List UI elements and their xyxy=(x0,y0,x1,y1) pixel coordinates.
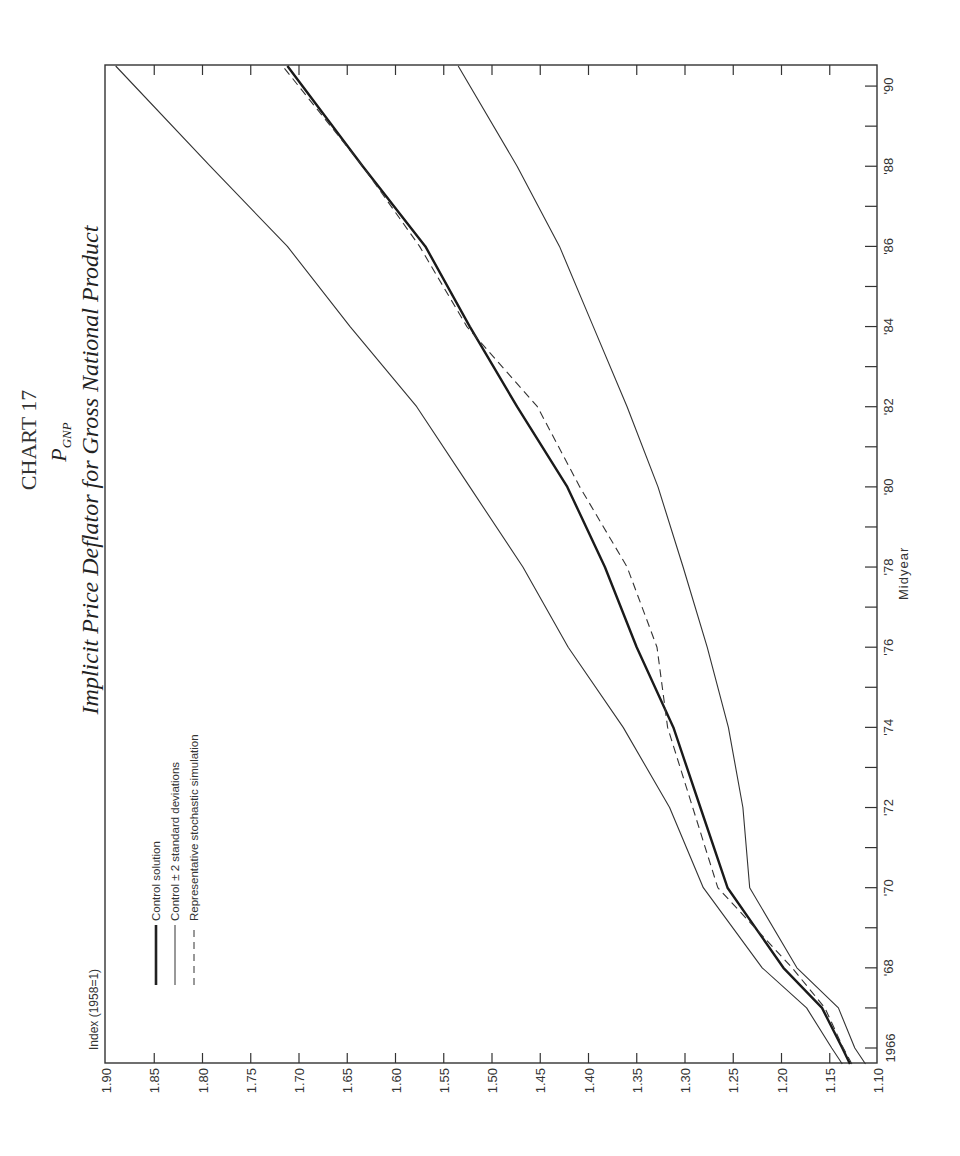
value-tick-label: 1.40 xyxy=(582,1068,597,1093)
legend-label-control: Control solution xyxy=(150,841,162,921)
year-tick-label: '90 xyxy=(881,78,896,95)
year-tick-label: '86 xyxy=(881,238,896,255)
series-representative-stochastic-simulation xyxy=(283,66,852,1064)
value-tick-label: 1.15 xyxy=(823,1068,838,1093)
year-tick-label: '82 xyxy=(881,398,896,415)
year-tick-label: '84 xyxy=(881,318,896,335)
value-tick-label: 1.45 xyxy=(533,1068,548,1093)
year-tick-label: '72 xyxy=(881,799,896,816)
value-tick-label: 1.65 xyxy=(340,1068,355,1093)
year-tick-label: 1966 xyxy=(883,1034,898,1063)
year-tick-label: '88 xyxy=(881,158,896,175)
value-tick-label: 1.70 xyxy=(292,1068,307,1093)
year-tick-label: '78 xyxy=(881,559,896,576)
chart: CHART 17 PGNP Implicit Price Deflator fo… xyxy=(0,0,960,1156)
value-axis-ticks xyxy=(154,65,830,1063)
chart-title: Implicit Price Deflator for Gross Nation… xyxy=(77,224,103,715)
value-tick-label: 1.80 xyxy=(196,1068,211,1093)
value-tick-label: 1.90 xyxy=(99,1068,114,1093)
year-tick-label: '76 xyxy=(881,639,896,656)
legend-label-stochastic: Representative stochastic simulation xyxy=(188,734,200,921)
series-control-2-standard-deviations xyxy=(116,66,843,1064)
legend: Control solution Control ± 2 standard de… xyxy=(150,734,200,985)
value-tick-label: 1.60 xyxy=(389,1068,404,1093)
value-tick-label: 1.10 xyxy=(871,1068,886,1093)
value-tick-label: 1.30 xyxy=(678,1068,693,1093)
year-tick-label: '74 xyxy=(881,719,896,736)
value-tick-label: 1.50 xyxy=(485,1068,500,1093)
chart-heading: CHART 17 xyxy=(16,390,41,490)
symbol-main: P xyxy=(46,448,71,462)
year-tick-label: '80 xyxy=(881,478,896,495)
value-tick-label: 1.20 xyxy=(775,1068,790,1093)
value-tick-label: 1.55 xyxy=(437,1068,452,1093)
year-tick-label: '68 xyxy=(881,959,896,976)
series-control-2-standard-deviations xyxy=(458,66,865,1064)
plot-frame xyxy=(105,65,877,1063)
chart-symbol: PGNP xyxy=(46,422,74,463)
value-tick-label: 1.75 xyxy=(244,1068,259,1093)
value-axis-labels: 1.101.151.201.251.301.351.401.451.501.55… xyxy=(99,1068,886,1093)
symbol-sub: GNP xyxy=(59,422,74,448)
year-axis-ticks xyxy=(865,86,877,1048)
value-tick-label: 1.25 xyxy=(726,1068,741,1093)
index-label: Index (1958=1) xyxy=(87,969,101,1050)
data-series xyxy=(116,66,866,1064)
value-tick-label: 1.85 xyxy=(147,1068,162,1093)
x-axis-label: Midyear xyxy=(896,547,911,600)
value-tick-label: 1.35 xyxy=(630,1068,645,1093)
legend-label-bands: Control ± 2 standard deviations xyxy=(169,762,181,921)
year-tick-label: '70 xyxy=(881,879,896,896)
